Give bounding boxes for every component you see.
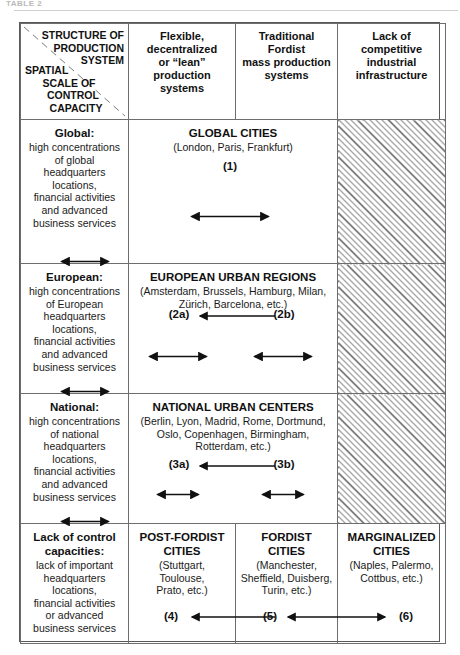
lack-control-title: Lack of control capacities: [25, 530, 124, 558]
fordist-title: FORDIST CITIES [240, 530, 333, 558]
content-cell-fordist-cities: FORDIST CITIES (Manchester, Sheffield, D… [236, 524, 338, 644]
arrow-label-3b: (3b) [265, 458, 303, 471]
typology-matrix: STRUCTURE OF PRODUCTION SYSTEM SPATIAL S… [19, 22, 440, 642]
column-header-lack-infrastructure-text: Lack of competitive industrial infrastru… [338, 24, 445, 119]
post-fordist-title: POST-FORDIST CITIES [133, 530, 231, 558]
matrix-row-lack-of-control: Lack of control capacities: lack of impo… [21, 524, 446, 644]
arrow-label-1: (1) [214, 160, 246, 173]
scale-body-european: high concentrations of European headquar… [25, 285, 124, 373]
scale-cell-european: European: high concentrations of Europea… [21, 264, 129, 394]
column-header-fordist: Traditional Fordist mass production syst… [236, 24, 338, 120]
corner-diagonal-container: STRUCTURE OF PRODUCTION SYSTEM SPATIAL S… [21, 24, 128, 119]
scale-body-global: high concentrations of global headquarte… [25, 141, 124, 229]
marginalized-title: MARGINALIZED CITIES [342, 530, 441, 558]
scale-cell-national-text: National: high concentrations of nationa… [21, 394, 128, 523]
content-cell-european-regions-text: EUROPEAN URBAN REGIONS (Amsterdam, Bruss… [129, 264, 337, 393]
scale-body-lack-control: lack of important headquarters locations… [25, 559, 124, 635]
content-cell-marginalized-cities-text: MARGINALIZED CITIES (Naples, Palermo, Co… [338, 524, 445, 643]
top-caption-fragment: TABLE 2 [6, 0, 116, 8]
corner-spatial-label: SPATIAL SCALE OF CONTROL CAPACITY [25, 64, 107, 114]
column-header-fordist-text: Traditional Fordist mass production syst… [236, 24, 337, 119]
matrix-header-row: STRUCTURE OF PRODUCTION SYSTEM SPATIAL S… [21, 24, 446, 120]
matrix-row-european: European: high concentrations of Europea… [21, 264, 446, 394]
top-divider-rule [14, 10, 458, 11]
arrow-label-2a: (2a) [160, 308, 198, 321]
scale-cell-global: Global: high concentrations of global he… [21, 120, 129, 264]
content-cell-marginalized-cities: MARGINALIZED CITIES (Naples, Palermo, Co… [338, 524, 446, 644]
corner-header-cell: STRUCTURE OF PRODUCTION SYSTEM SPATIAL S… [21, 24, 129, 120]
content-cell-fordist-cities-text: FORDIST CITIES (Manchester, Sheffield, D… [236, 524, 337, 643]
scale-body-national: high concentrations of national headquar… [25, 415, 124, 503]
national-centers-examples: (Berlin, Lyon, Madrid, Rome, Dortmund, O… [133, 415, 333, 453]
column-header-flexible: Flexible, decentralized or “lean” produc… [129, 24, 236, 120]
arrow-label-2b: (2b) [265, 308, 303, 321]
scale-cell-european-text: European: high concentrations of Europea… [21, 264, 128, 393]
scale-cell-lack-control: Lack of control capacities: lack of impo… [21, 524, 129, 644]
global-cities-examples: (London, Paris, Frankfurt) [133, 141, 333, 154]
content-cell-post-fordist-cities-text: POST-FORDIST CITIES (Stuttgart, Toulouse… [129, 524, 235, 643]
matrix-row-national: National: high concentrations of nationa… [21, 394, 446, 524]
hatched-region-european [338, 264, 446, 394]
corner-structure-label: STRUCTURE OF PRODUCTION SYSTEM [38, 29, 124, 67]
scale-cell-national: National: high concentrations of nationa… [21, 394, 129, 524]
scale-cell-global-text: Global: high concentrations of global he… [21, 120, 128, 263]
arrow-label-6: (6) [390, 610, 422, 623]
arrow-label-4: (4) [155, 610, 187, 623]
content-cell-global-cities: GLOBAL CITIES (London, Paris, Frankfurt) [129, 120, 338, 264]
arrow-label-5: (5) [254, 610, 286, 623]
matrix-row-global: Global: high concentrations of global he… [21, 120, 446, 264]
content-cell-post-fordist-cities: POST-FORDIST CITIES (Stuttgart, Toulouse… [129, 524, 236, 644]
hatched-region-national [338, 394, 446, 524]
column-header-lack-infrastructure: Lack of competitive industrial infrastru… [338, 24, 446, 120]
post-fordist-examples: (Stuttgart, Toulouse, Prato, etc.) [133, 559, 231, 597]
fordist-examples: (Manchester, Sheffield, Duisberg, Turin,… [240, 559, 333, 597]
european-regions-examples: (Amsterdam, Brussels, Hamburg, Milan, Zü… [133, 285, 333, 310]
column-header-flexible-text: Flexible, decentralized or “lean” produc… [129, 24, 235, 119]
matrix-table: STRUCTURE OF PRODUCTION SYSTEM SPATIAL S… [20, 23, 446, 644]
hatched-region-global [338, 120, 446, 264]
marginalized-examples: (Naples, Palermo, Cottbus, etc.) [342, 559, 441, 584]
content-cell-global-cities-text: GLOBAL CITIES (London, Paris, Frankfurt) [129, 120, 337, 263]
scale-cell-lack-control-text: Lack of control capacities: lack of impo… [21, 524, 128, 643]
arrow-label-3a: (3a) [160, 458, 198, 471]
content-cell-european-regions: EUROPEAN URBAN REGIONS (Amsterdam, Bruss… [129, 264, 338, 394]
